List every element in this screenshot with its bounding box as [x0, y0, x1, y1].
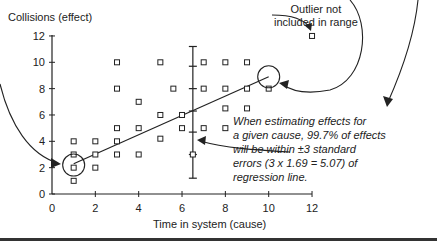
y-tick-label: 6: [39, 109, 45, 121]
data-point: [115, 86, 120, 91]
data-point: [310, 33, 315, 38]
x-tick-label: 12: [306, 202, 318, 214]
x-tick-label: 8: [222, 202, 228, 214]
data-point: [190, 152, 195, 157]
outlier-annotation: Outlier not included in range: [274, 3, 358, 29]
x-tick-label: 4: [136, 202, 142, 214]
y-tick-label: 8: [39, 83, 45, 95]
outlier-annotation-line: Outlier not: [274, 3, 358, 16]
data-point: [71, 165, 76, 170]
standard-error-annotation: When estimating effects for a given caus…: [233, 114, 386, 184]
data-point: [180, 126, 185, 131]
data-point: [171, 86, 176, 91]
data-point: [180, 112, 185, 117]
x-tick-label: 2: [92, 202, 98, 214]
data-point: [115, 139, 120, 144]
x-axis-label: Time in system (cause): [153, 218, 266, 231]
annotation-line: will be within ±3 standard: [233, 142, 386, 156]
data-point: [136, 152, 141, 157]
annotation-line: regression line.: [233, 170, 386, 184]
x-tick-label: 0: [49, 202, 55, 214]
outlier-annotation-line: included in range: [274, 16, 358, 29]
data-point: [201, 126, 206, 131]
data-point: [223, 86, 228, 91]
y-tick-label: 10: [33, 56, 45, 68]
data-point: [245, 60, 250, 65]
data-point: [223, 60, 228, 65]
data-point: [158, 112, 163, 117]
x-tick-label: 10: [263, 202, 275, 214]
data-point: [136, 126, 141, 131]
y-tick-label: 2: [39, 162, 45, 174]
data-point: [158, 60, 163, 65]
data-point: [245, 106, 250, 111]
arrowhead-left: [51, 158, 61, 168]
arrowhead-top-right: [383, 96, 393, 107]
data-point: [93, 152, 98, 157]
y-tick-label: 12: [33, 30, 45, 42]
data-point: [115, 152, 120, 157]
data-point: [115, 126, 120, 131]
annotation-line: a given cause, 99.7% of effects: [233, 128, 386, 142]
arrow-left-curve: [0, 84, 58, 163]
data-point: [201, 86, 206, 91]
data-point: [201, 60, 206, 65]
data-point: [71, 139, 76, 144]
y-axis-label: Collisions (effect): [8, 11, 92, 24]
annotation-line: errors (3 x 1.69 = 5.07) of: [233, 156, 386, 170]
y-tick-label: 0: [39, 188, 45, 200]
data-point: [245, 86, 250, 91]
arrow-top-right: [388, 0, 418, 102]
data-point: [266, 86, 271, 91]
data-point: [115, 60, 120, 65]
data-point: [93, 165, 98, 170]
data-point: [223, 126, 228, 131]
annotation-line: When estimating effects for: [233, 114, 386, 128]
data-point: [93, 139, 98, 144]
data-point: [136, 99, 141, 104]
data-point: [71, 178, 76, 183]
arrowhead-interval: [197, 136, 206, 145]
y-tick-label: 4: [39, 135, 45, 147]
data-point: [158, 136, 163, 141]
x-tick-label: 6: [179, 202, 185, 214]
data-point: [223, 106, 228, 111]
